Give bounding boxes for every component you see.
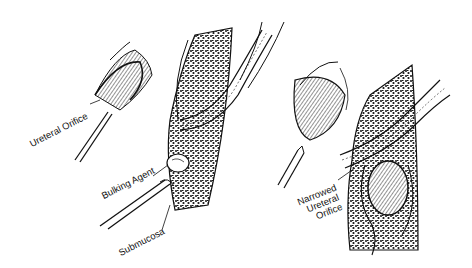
left-cross-section [90, 28, 272, 230]
illustration [0, 0, 472, 268]
left-orifice-view [75, 42, 152, 162]
right-orifice-view [278, 62, 348, 188]
diagram-canvas: Ureteral Orifice Bulking Agent Submucosa… [0, 0, 472, 268]
right-cross-section [338, 65, 450, 255]
